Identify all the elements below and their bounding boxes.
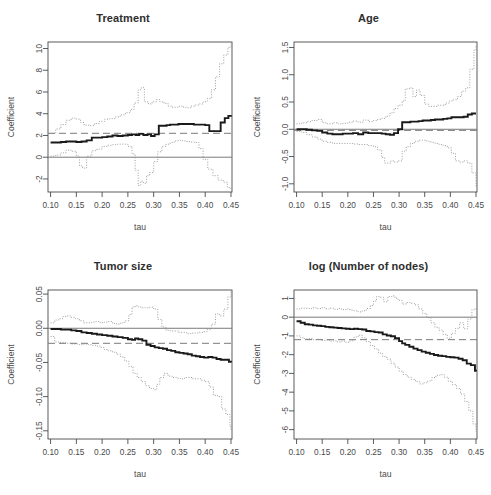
- x-tick-label: 0.35: [171, 200, 188, 210]
- x-tick-label: 0.10: [42, 447, 59, 457]
- y-axis-title: Coefficient: [6, 96, 16, 137]
- y-tick-label: 10: [34, 44, 44, 54]
- x-tick-label: 0.40: [197, 447, 214, 457]
- lower-confidence-bound-path: [297, 131, 476, 186]
- y-tick-label: -0.05: [34, 353, 44, 372]
- x-tick-label: 0.20: [340, 200, 357, 210]
- x-tick-label: 0.10: [288, 447, 305, 457]
- x-tick-label: 0.35: [417, 200, 434, 210]
- x-tick-label: 0.35: [417, 447, 434, 457]
- x-tick-label: 0.35: [171, 447, 188, 457]
- y-tick-label: -1.0: [280, 176, 290, 191]
- y-tick-label: -1: [280, 332, 290, 340]
- x-tick-label: 0.30: [391, 447, 408, 457]
- y-tick-label: -0.10: [34, 387, 44, 406]
- y-tick-label: 6: [34, 89, 44, 94]
- upper-confidence-bound-path: [297, 45, 476, 124]
- y-tick-label: 0: [280, 314, 290, 319]
- x-tick-label: 0.15: [314, 200, 331, 210]
- x-tick-label: 0.10: [42, 200, 59, 210]
- y-tick-label: 1: [280, 296, 290, 301]
- y-tick-label: 0.05: [34, 286, 44, 303]
- x-axis-title: tau: [380, 469, 392, 479]
- x-tick-label: 0.20: [94, 200, 111, 210]
- estimate-path: [297, 321, 476, 371]
- y-tick-label: -4: [280, 388, 290, 396]
- x-axis-title: tau: [380, 222, 392, 232]
- x-tick-label: 0.45: [223, 200, 240, 210]
- plot-frame: [48, 42, 232, 192]
- plot-frame: [48, 290, 232, 439]
- y-tick-label: 0.5: [280, 96, 290, 108]
- x-tick-label: 0.45: [223, 447, 240, 457]
- x-tick-label: 0.40: [442, 200, 459, 210]
- y-axis-title: Coefficient: [252, 344, 262, 385]
- y-tick-label: -6: [280, 426, 290, 434]
- panel-grid: Treatment -202468100.100.150.200.250.300…: [0, 0, 491, 495]
- y-axis-title: Coefficient: [252, 96, 262, 137]
- y-tick-label: -3: [280, 369, 290, 377]
- y-tick-label: -2: [280, 351, 290, 359]
- panel-age: Age -1.0-0.50.00.51.01.50.100.150.200.25…: [246, 0, 491, 248]
- y-tick-label: -5: [280, 407, 290, 415]
- plot-log-number-of-nodes: -6-5-4-3-2-1010.100.150.200.250.300.350.…: [246, 248, 491, 495]
- estimate-path: [51, 115, 231, 142]
- x-tick-label: 0.25: [365, 200, 382, 210]
- plot-age: -1.0-0.50.00.51.01.50.100.150.200.250.30…: [246, 0, 491, 248]
- x-tick-label: 0.25: [365, 447, 382, 457]
- estimate-path: [297, 113, 476, 134]
- x-tick-label: 0.25: [120, 447, 137, 457]
- lower-confidence-bound-path: [297, 335, 476, 431]
- plot-tumor-size: -0.15-0.10-0.050.000.050.100.150.200.250…: [0, 248, 246, 495]
- x-tick-label: 0.30: [391, 200, 408, 210]
- x-tick-label: 0.25: [120, 200, 137, 210]
- panel-treatment: Treatment -202468100.100.150.200.250.300…: [0, 0, 246, 248]
- estimate-path: [51, 329, 231, 362]
- x-tick-label: 0.40: [197, 200, 214, 210]
- x-tick-label: 0.45: [468, 447, 485, 457]
- y-tick-label: 1.0: [280, 69, 290, 81]
- x-tick-label: 0.20: [94, 447, 111, 457]
- y-tick-label: 0.0: [280, 123, 290, 135]
- x-tick-label: 0.30: [146, 447, 163, 457]
- y-tick-label: -0.15: [34, 421, 44, 440]
- y-tick-label: -2: [34, 175, 44, 183]
- y-tick-label: 2: [34, 133, 44, 138]
- x-axis-title: tau: [134, 222, 146, 232]
- upper-confidence-bound-path: [51, 44, 231, 133]
- x-tick-label: 0.30: [146, 200, 163, 210]
- y-tick-label: 0.00: [34, 320, 44, 337]
- panel-log-number-of-nodes: log (Number of nodes) -6-5-4-3-2-1010.10…: [246, 248, 491, 495]
- plot-frame: [294, 290, 477, 439]
- y-tick-label: 1.5: [280, 41, 290, 53]
- y-tick-label: 8: [34, 68, 44, 73]
- panel-tumor-size: Tumor size -0.15-0.10-0.050.000.050.100.…: [0, 248, 246, 495]
- x-tick-label: 0.15: [68, 200, 85, 210]
- y-tick-label: 4: [34, 111, 44, 116]
- x-tick-label: 0.20: [340, 447, 357, 457]
- lower-confidence-bound-path: [51, 140, 231, 190]
- y-tick-label: -0.5: [280, 149, 290, 164]
- x-tick-label: 0.15: [68, 447, 85, 457]
- lower-confidence-bound-path: [51, 336, 231, 430]
- x-axis-title: tau: [134, 469, 146, 479]
- x-tick-label: 0.40: [442, 447, 459, 457]
- y-tick-label: 0: [34, 155, 44, 160]
- y-axis-title: Coefficient: [6, 344, 16, 385]
- x-tick-label: 0.15: [314, 447, 331, 457]
- plot-treatment: -202468100.100.150.200.250.300.350.400.4…: [0, 0, 246, 248]
- x-tick-label: 0.10: [288, 200, 305, 210]
- x-tick-label: 0.45: [468, 200, 485, 210]
- upper-confidence-bound-path: [51, 291, 231, 334]
